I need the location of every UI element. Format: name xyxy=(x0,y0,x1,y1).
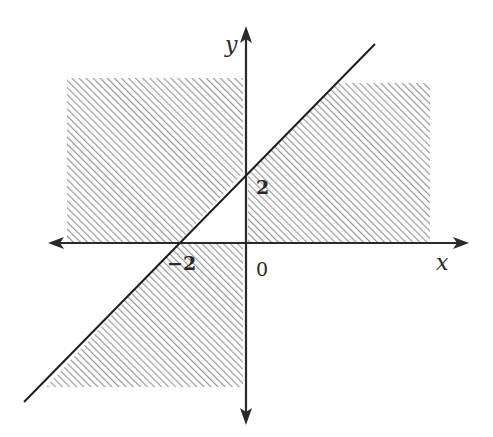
graph-canvas: y x 0 2 −2 xyxy=(0,0,493,437)
inequality-graph: y x 0 2 −2 xyxy=(0,0,493,437)
y-axis-label: y xyxy=(224,32,238,57)
shaded-region-lower-left xyxy=(46,243,243,387)
shaded-region-upper-left xyxy=(67,78,243,243)
y-intercept-label: 2 xyxy=(256,176,269,198)
x-intercept-label: −2 xyxy=(167,252,196,274)
origin-label: 0 xyxy=(256,258,268,280)
shaded-region-upper-right xyxy=(248,83,430,243)
x-axis-label: x xyxy=(436,250,449,275)
